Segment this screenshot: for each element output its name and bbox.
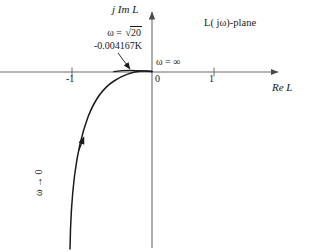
omega-to-zero-text: ω → 0 (33, 169, 44, 196)
crossing-omega-prefix: ω = (107, 27, 124, 38)
nyquist-plot-canvas (0, 0, 316, 252)
tick-label-pos1-text: 1 (209, 73, 214, 84)
nyquist-locus (70, 70, 152, 249)
crossing-annotation: ω = √20 -0.004167K (84, 26, 142, 52)
real-axis-label-text: Re L (272, 81, 292, 93)
omega-to-zero-label: ω → 0 (34, 144, 44, 196)
tick-label-neg1-text: -1 (66, 73, 74, 84)
plane-label-text: L( jω)-plane (204, 17, 256, 28)
crossing-omega-radicand: 20 (130, 26, 142, 40)
omega-infinity-label: ω = ∞ (156, 57, 180, 67)
plane-label: L( jω)-plane (204, 18, 256, 29)
crossing-pointer-arrow-icon (118, 53, 130, 69)
tick-label-neg1: -1 (66, 74, 74, 84)
sqrt-icon: √20 (125, 26, 143, 40)
omega-infinity-text: ω = ∞ (156, 56, 180, 67)
crossing-value-line: -0.004167K (84, 40, 142, 53)
imaginary-axis-label: j Im L (112, 4, 138, 15)
real-axis-label: Re L (272, 82, 292, 93)
crossing-omega-line: ω = √20 (84, 26, 142, 40)
origin-label-text: 0 (155, 73, 160, 84)
origin-label: 0 (155, 74, 160, 84)
imaginary-axis-label-text: j Im L (112, 3, 138, 15)
tick-label-pos1: 1 (209, 74, 214, 84)
